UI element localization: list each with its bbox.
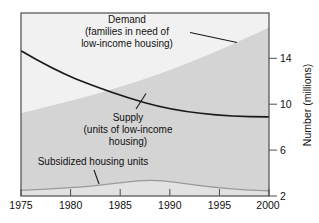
ytick-label-14: 14: [280, 52, 292, 64]
y-axis-title: Number (millions): [301, 64, 313, 146]
housing-supply-demand-chart: 1975 1980 1985 1990 1995 2000 14 10 6 2 …: [0, 0, 319, 223]
supply-annotation-line3: housing): [109, 136, 147, 147]
demand-annotation-line1: Demand: [108, 14, 146, 25]
xtick-label-1985: 1985: [109, 199, 133, 211]
demand-annotation-line3: low-income housing): [81, 38, 173, 49]
demand-annotation-line2: (families in need of: [85, 26, 169, 37]
ytick-label-6: 6: [280, 144, 286, 156]
supply-annotation-line2: (units of low-income: [84, 124, 173, 135]
subsidized-annotation-line1: Subsidized housing units: [38, 156, 149, 167]
y-axis-ticks: [269, 58, 277, 196]
xtick-label-1975: 1975: [9, 199, 33, 211]
xtick-label-2000: 2000: [256, 199, 280, 211]
supply-annotation-line1: Supply: [113, 112, 144, 123]
chart-figure: 1975 1980 1985 1990 1995 2000 14 10 6 2 …: [0, 0, 319, 223]
xtick-label-1995: 1995: [208, 199, 232, 211]
ytick-label-10: 10: [280, 98, 292, 110]
xtick-label-1980: 1980: [59, 199, 83, 211]
xtick-label-1990: 1990: [158, 199, 182, 211]
ytick-label-2: 2: [280, 190, 286, 202]
